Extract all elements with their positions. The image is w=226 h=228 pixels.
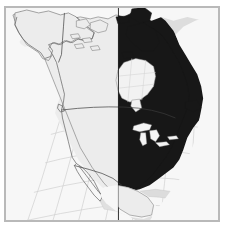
arctic-island-southampton [122,52,134,59]
map-frame [4,6,220,222]
figure-container [0,0,226,228]
arctic-island-small-c [74,44,84,49]
map-canvas [5,7,219,221]
arctic-island-small-b [82,38,92,43]
arctic-island-small-d [90,46,100,51]
arctic-island-small-a [70,34,80,39]
